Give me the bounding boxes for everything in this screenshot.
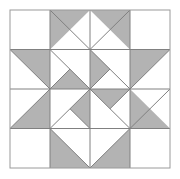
quilt-block-svg (0, 0, 180, 179)
quilt-block-figure (0, 0, 180, 179)
